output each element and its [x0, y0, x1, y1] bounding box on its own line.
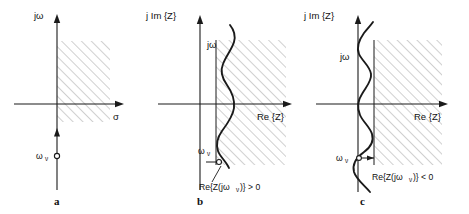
panel-c-real-axis-label: Re {Z} [414, 111, 441, 122]
panel-c-imaginary-axis-label: j Im {Z} [303, 10, 334, 21]
panel-b-condition-leader [212, 166, 221, 182]
panel-b-condition-subscript: ν [236, 186, 239, 193]
panel-c-curve-label: jω [339, 51, 350, 62]
panel-b-curve-label: jω [206, 39, 217, 50]
panel-c-frequency-subscript: ν [345, 157, 348, 164]
panel-c-condition-subscript: ν [409, 176, 412, 183]
panel-a-imaginary-axis-label: jω [33, 10, 44, 21]
figure-container: jω σ ω ν a j Im {Z} Re {Z} jω ω ν Re{Z(j… [0, 0, 469, 214]
panel-a: jω σ ω ν a [14, 10, 124, 207]
panel-a-hatched-region [57, 41, 110, 122]
panel-c-condition-text: Re{Z(jω [372, 172, 403, 182]
panel-c-imaginary-axis-arrowhead [355, 15, 361, 24]
panel-a-frequency-subscript: ν [45, 155, 48, 162]
panel-b-condition-text: Re{Z(jω [199, 182, 230, 192]
complex-plane-figure: jω σ ω ν a j Im {Z} Re {Z} jω ω ν Re{Z(j… [0, 0, 469, 214]
panel-c-locus-curve [354, 22, 373, 192]
panel-b-frequency-subscript: ν [207, 150, 210, 157]
panel-b-condition-tail: )} > 0 [240, 182, 261, 192]
panel-a-letter: a [54, 195, 60, 207]
panel-c: j Im {Z} Re {Z} jω ω ν Re{Z(jω ν )} < 0 … [303, 10, 448, 207]
panel-c-real-axis-arrowhead [439, 101, 448, 107]
panel-a-frequency-marker [54, 153, 59, 158]
panel-b-real-axis-label: Re {Z} [257, 111, 284, 122]
panel-b-frequency-marker [217, 160, 222, 165]
panel-a-direction-arrow [54, 128, 60, 137]
panel-c-frequency-marker [357, 156, 362, 161]
panel-c-hatched-region [374, 40, 442, 165]
panel-c-frequency-label: ω [336, 153, 343, 163]
panel-a-real-axis-arrowhead [115, 101, 124, 107]
panel-b-condition-expression: Re{Z(jω ν )} > 0 [199, 182, 261, 193]
panel-b-real-axis-arrowhead [283, 101, 292, 107]
panel-c-condition-tail: )} < 0 [413, 172, 434, 182]
panel-a-imaginary-axis-arrowhead [54, 14, 60, 23]
panel-c-condition-expression: Re{Z(jω ν )} < 0 [372, 172, 434, 183]
panel-a-real-axis-label: σ [113, 111, 119, 122]
panel-b-frequency-label: ω [198, 146, 205, 156]
panel-b-imaginary-axis-arrowhead [197, 15, 203, 24]
panel-a-frequency-label: ω [36, 151, 43, 161]
panel-b-letter: b [197, 195, 203, 207]
panel-b: j Im {Z} Re {Z} jω ω ν Re{Z(jω ν )} > 0 … [145, 10, 292, 207]
panel-b-imaginary-axis-label: j Im {Z} [145, 10, 176, 21]
panel-c-letter: c [360, 195, 365, 207]
panel-c-frequency-arrowhead [367, 155, 374, 160]
